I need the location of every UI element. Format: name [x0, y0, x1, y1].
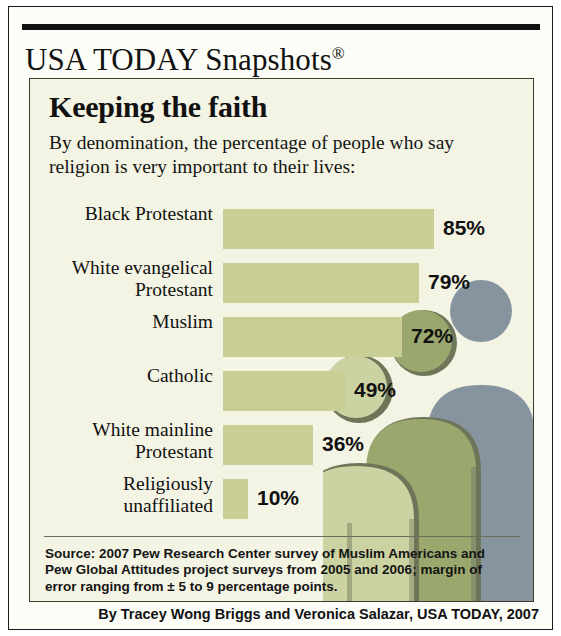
bar-label-line1: White mainline [92, 419, 213, 440]
bar-category-label: White mainlineProtestant [29, 419, 213, 463]
bar-value-label: 72% [411, 324, 453, 348]
bar-fill [223, 479, 248, 519]
bar-value-label: 10% [257, 486, 299, 510]
bar-track: 72% [223, 317, 533, 357]
masthead-brand: USA TODAY Snapshots [25, 42, 332, 77]
bar-track: 85% [223, 209, 533, 249]
bar-category-label: Muslim [29, 311, 213, 333]
snapshot-graphic: USA TODAY Snapshots® [0, 0, 561, 636]
bar-category-label: White evangelicalProtestant [29, 257, 213, 301]
bar-track: 79% [223, 263, 533, 303]
source-divider [44, 536, 520, 537]
table-row: White mainlineProtestant 36% [30, 419, 533, 473]
bar-fill [223, 263, 419, 303]
bar-label-line1: White evangelical [72, 257, 213, 278]
source-note: Source: 2007 Pew Research Center survey … [45, 546, 490, 596]
byline: By Tracey Wong Briggs and Veronica Salaz… [0, 606, 553, 622]
bar-fill [223, 209, 434, 249]
table-row: Religiouslyunaffiliated 10% [30, 473, 533, 527]
bar-value-label: 79% [428, 270, 470, 294]
bar-category-label: Religiouslyunaffiliated [29, 473, 213, 517]
chart-headline: Keeping the faith [49, 90, 267, 124]
bar-label-line2: Protestant [135, 279, 213, 300]
bar-fill [223, 371, 345, 411]
registered-trademark-icon: ® [332, 44, 345, 63]
masthead-title: USA TODAY Snapshots® [25, 33, 535, 75]
bar-track: 10% [223, 479, 533, 519]
bar-category-label: Catholic [29, 365, 213, 387]
bar-track: 49% [223, 371, 533, 411]
table-row: Muslim 72% [30, 311, 533, 365]
bar-label-line1: Catholic [147, 365, 213, 386]
table-row: Catholic 49% [30, 365, 533, 419]
chart-subhead: By denomination, the percentage of peopl… [49, 131, 479, 179]
table-row: Black Protestant 85% [30, 203, 533, 257]
bar-fill [223, 425, 313, 465]
table-row: White evangelicalProtestant 79% [30, 257, 533, 311]
bar-label-line2: unaffiliated [123, 495, 213, 516]
bar-label-line2: Protestant [135, 441, 213, 462]
bar-value-label: 36% [322, 432, 364, 456]
bar-category-label: Black Protestant [29, 203, 213, 225]
bar-chart-rows: Black Protestant 85% White evangelicalPr… [30, 203, 533, 527]
chart-panel: Keeping the faith By denomination, the p… [29, 78, 534, 602]
bar-value-label: 85% [443, 216, 485, 240]
bar-label-line1: Muslim [152, 311, 213, 332]
masthead-rule [22, 24, 540, 30]
bar-track: 36% [223, 425, 533, 465]
bar-fill [223, 317, 402, 357]
bar-label-line1: Religiously [123, 473, 213, 494]
bar-label-line1: Black Protestant [85, 203, 213, 224]
bar-value-label: 49% [354, 378, 396, 402]
